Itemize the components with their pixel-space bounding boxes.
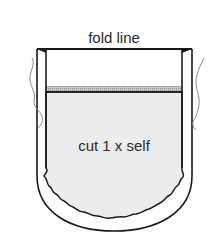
corner-tab-left xyxy=(37,49,46,53)
break-squiggle-right xyxy=(193,58,204,130)
cut-instruction-label: cut 1 x self xyxy=(78,137,151,154)
corner-tab-right xyxy=(182,49,192,53)
upper-area xyxy=(46,50,182,86)
hatched-band xyxy=(46,86,182,91)
pattern-diagram: fold line cut 1 x self xyxy=(0,0,212,244)
fold-line-label: fold line xyxy=(88,29,140,46)
pocket-body xyxy=(44,92,184,218)
